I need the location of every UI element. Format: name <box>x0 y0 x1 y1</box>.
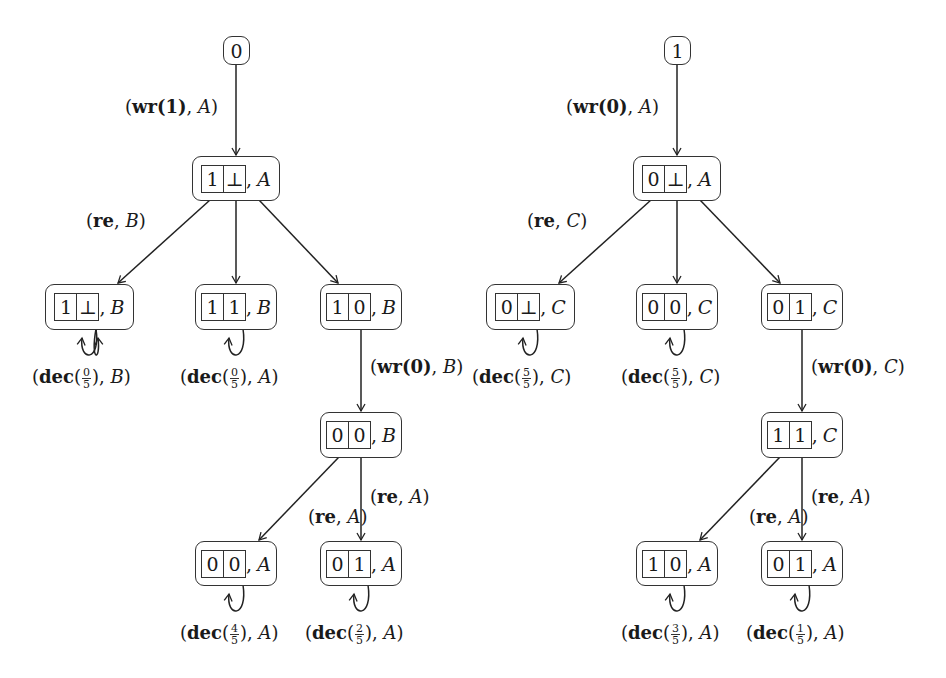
cell: 0 <box>643 166 664 192</box>
cell: 0 <box>768 551 789 577</box>
cell: ⊥ <box>223 166 245 192</box>
edge-label-left-re-B: (re, B) <box>86 210 146 231</box>
state-node-left-n2b: 11,B <box>195 284 277 330</box>
loop-label-left-n4b: (dec(25), A) <box>305 622 404 646</box>
agent-label: B <box>382 424 396 446</box>
state-node-left-n1: 1⊥,A <box>192 156 280 201</box>
loop-right-n4a <box>670 585 685 611</box>
state-node-right-n3: 11,C <box>761 412 843 458</box>
agent-label: B <box>382 296 396 318</box>
loop-right-n2a <box>523 329 538 355</box>
edge-right-n3-n4a <box>700 457 780 540</box>
cell: 0 <box>202 551 223 577</box>
agent-label: A <box>257 553 271 575</box>
state-node-left-n2a: 1⊥,B <box>45 284 134 330</box>
loop-left-n4a <box>229 585 244 611</box>
cell: 1 <box>348 551 370 577</box>
loop-right-n2b <box>670 329 685 355</box>
cell: ⊥ <box>76 294 98 320</box>
agent-label: C <box>823 296 838 318</box>
edge-right-n1-n2c <box>700 200 780 283</box>
agent-label: B <box>111 296 125 318</box>
cell: ⊥ <box>517 294 539 320</box>
cell: 1 <box>789 551 811 577</box>
state-node-right-n4b: 01,A <box>761 541 843 586</box>
cell: 1 <box>643 551 664 577</box>
cell: 0 <box>348 422 370 448</box>
state-node-right-n1: 0⊥,A <box>633 156 721 201</box>
cell: 0 <box>327 551 348 577</box>
cell: 0 <box>348 294 370 320</box>
edge-label-right-wr0-C: (wr(0), C) <box>811 356 905 377</box>
state-node-right-n2b: 00,C <box>636 284 718 330</box>
state-node-left-root: 0 <box>223 36 250 65</box>
cell: 1 <box>55 294 76 320</box>
cell: 1 <box>327 294 348 320</box>
cell: 0 <box>664 551 686 577</box>
agent-label: A <box>257 168 271 190</box>
edge-label-right-re-A: (re, A) <box>811 486 870 507</box>
cell: 1 <box>202 294 223 320</box>
loop-right-n4b <box>795 585 810 611</box>
edge-label-left-re-A-overlap: (re, A) <box>308 506 367 527</box>
loop-left-n2b <box>229 329 244 355</box>
edge-label-left-re-A: (re, A) <box>370 486 429 507</box>
agent-label: A <box>698 168 712 190</box>
cell: 0 <box>327 422 348 448</box>
edge-label-right-re-C: (re, C) <box>527 210 587 231</box>
state-label: 1 <box>671 40 683 62</box>
agent-label: C <box>823 424 838 446</box>
state-node-right-n2a: 0⊥,C <box>486 284 575 330</box>
cell: 0 <box>223 551 245 577</box>
cell: 1 <box>789 422 811 448</box>
agent-label: A <box>823 553 837 575</box>
loop-left-n4b <box>354 585 369 611</box>
edge-label-right-re-A-overlap: (re, A) <box>749 506 808 527</box>
cell: 1 <box>768 422 789 448</box>
agent-label: B <box>257 296 271 318</box>
edge-label-left-wr0-B: (wr(0), B) <box>370 356 463 377</box>
state-node-left-n4a: 00,A <box>195 541 277 586</box>
cell: 1 <box>202 166 223 192</box>
edge-label-right-wr0-A: (wr(0), A) <box>566 96 659 117</box>
state-node-left-n4b: 01,A <box>320 541 402 586</box>
state-node-right-root: 1 <box>664 36 691 65</box>
cell: 0 <box>496 294 517 320</box>
state-node-left-n3: 00,B <box>320 412 402 458</box>
loop-label-left-n2a: (dec(05), B) <box>32 366 131 390</box>
agent-label: A <box>698 553 712 575</box>
edge-left-n1-n2c <box>259 200 338 283</box>
edge-left-n3-n4a <box>259 457 339 540</box>
cell: 0 <box>664 294 686 320</box>
state-label: 0 <box>230 40 242 62</box>
state-node-right-n2c: 01,C <box>761 284 843 330</box>
cell: 0 <box>768 294 789 320</box>
loop-label-left-n4a: (dec(45), A) <box>180 622 279 646</box>
agent-label: A <box>382 553 396 575</box>
cell: 1 <box>223 294 245 320</box>
agent-label: C <box>551 296 566 318</box>
loop-label-left-n2b: (dec(05), A) <box>180 366 279 390</box>
state-node-left-n2c: 10,B <box>320 284 402 330</box>
loop-label-right-n4a: (dec(35), A) <box>621 622 720 646</box>
cell: ⊥ <box>664 166 686 192</box>
cell: 1 <box>789 294 811 320</box>
loop-label-right-n4b: (dec(15), A) <box>746 622 845 646</box>
agent-label: C <box>698 296 713 318</box>
edge-label-left-wr1-A: (wr(1), A) <box>125 96 218 117</box>
state-node-right-n4a: 10,A <box>636 541 718 586</box>
cell: 0 <box>643 294 664 320</box>
loop-label-right-n2b: (dec(55), C) <box>621 366 720 390</box>
loop-label-right-n2a: (dec(55), C) <box>472 366 571 390</box>
